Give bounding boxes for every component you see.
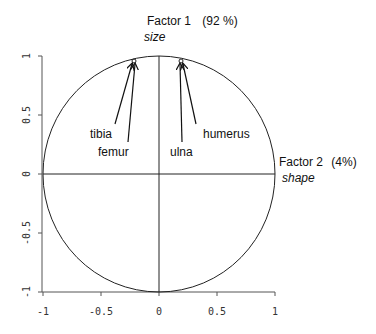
y-tick-label: 0 — [21, 171, 32, 177]
arrow-tibia — [115, 64, 132, 124]
factor1-label: Factor 1 — [147, 14, 191, 28]
label-tibia: tibia — [90, 127, 112, 141]
y-tick-label: 1 — [21, 53, 32, 59]
factor2-percent: (4%) — [331, 155, 356, 169]
x-axis: -1 -0.5 0 0.5 1 — [37, 292, 278, 317]
x-tick-label: -1 — [37, 306, 49, 317]
y-axis: 1 0.5 0 -0.5 -1 — [21, 53, 42, 298]
y-tick-label: -1 — [21, 286, 32, 298]
x-tick-label: 0.5 — [208, 306, 226, 317]
factor1-title: Factor 1 (92 %) — [147, 14, 238, 28]
arrow-ulna — [180, 64, 182, 142]
x-tick-label: -0.5 — [89, 306, 113, 317]
data-point-ulna-humerus — [179, 59, 183, 63]
factor1-percent: (92 %) — [202, 14, 237, 28]
x-tick-label: 1 — [272, 306, 278, 317]
factor1-meaning: size — [144, 30, 166, 44]
label-humerus: humerus — [203, 127, 250, 141]
factor2-label: Factor 2 — [279, 155, 323, 169]
arrow-humerus — [183, 64, 196, 124]
y-tick-label: -0.5 — [21, 221, 32, 245]
factor2-meaning: shape — [282, 171, 315, 185]
x-tick-label: 0 — [156, 306, 162, 317]
data-point-tibia-femur — [132, 59, 136, 63]
factor2-title: Factor 2 (4%) — [279, 155, 357, 169]
y-tick-label: 0.5 — [21, 106, 32, 124]
label-ulna: ulna — [170, 145, 193, 159]
label-femur: femur — [98, 145, 129, 159]
correlation-circle-chart: 1 0.5 0 -0.5 -1 -1 -0.5 0 0.5 1 tibia fe… — [0, 0, 376, 334]
